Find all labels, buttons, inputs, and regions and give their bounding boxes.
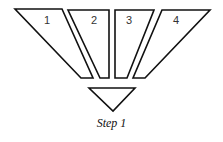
step-caption: Step 1 xyxy=(0,116,223,131)
piece-1-label: 1 xyxy=(44,15,50,26)
piece-3-label: 3 xyxy=(126,15,132,26)
diagram-canvas: 1 2 3 4 Step 1 xyxy=(0,0,223,142)
piece-4-label: 4 xyxy=(173,15,179,26)
piece-2-label: 2 xyxy=(91,15,97,26)
bottom-triangle-shape xyxy=(89,88,135,111)
